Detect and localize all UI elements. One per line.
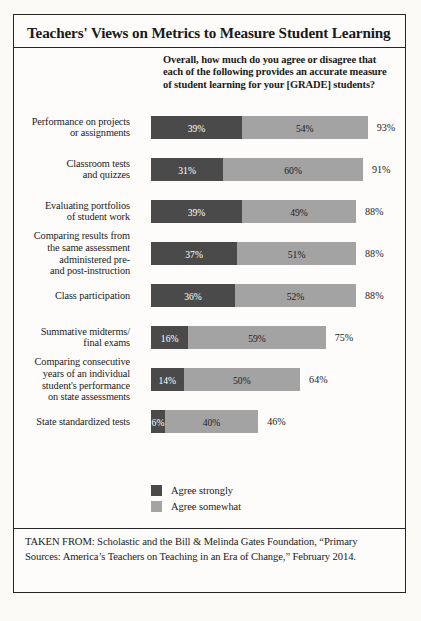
bar-value-agree-strongly: 36% <box>151 290 235 301</box>
bar-value-agree-somewhat: 52% <box>235 290 356 301</box>
bar-total-label: 88% <box>356 284 384 307</box>
bar-total-label: 75% <box>326 326 354 349</box>
bar-segment-agree-strongly: 39% <box>151 116 242 139</box>
stacked-bar: 6%40%46% <box>151 410 286 433</box>
bar-value-agree-strongly: 31% <box>151 164 223 175</box>
figure-page: Teachers' Views on Metrics to Measure St… <box>0 0 421 621</box>
bar-total-label: 64% <box>300 368 328 391</box>
bar-value-agree-somewhat: 49% <box>242 206 356 217</box>
legend-swatch-agree-strongly <box>151 485 162 496</box>
bar-value-agree-strongly: 39% <box>151 206 242 217</box>
stacked-bar: 16%59%75% <box>151 326 353 349</box>
chart-row: Comparing results fromthe same assessmen… <box>14 233 405 275</box>
legend-label-agree-strongly: Agree strongly <box>171 485 233 496</box>
legend-item-agree-somewhat: Agree somewhat <box>151 501 241 512</box>
category-label: State standardized tests <box>0 416 130 428</box>
legend-label-agree-somewhat: Agree somewhat <box>171 501 241 512</box>
legend-swatch-agree-somewhat <box>151 501 162 512</box>
bar-segment-agree-strongly: 6% <box>151 410 165 433</box>
bar-value-agree-strongly: 16% <box>151 332 188 343</box>
bar-value-agree-strongly: 14% <box>151 374 184 385</box>
stacked-bar: 39%54%93% <box>151 116 395 139</box>
page-title: Teachers' Views on Metrics to Measure St… <box>14 15 405 50</box>
stacked-bar: 37%51%88% <box>151 242 384 265</box>
bar-segment-agree-somewhat: 51% <box>237 242 356 265</box>
category-label: Summative midterms/final exams <box>0 326 130 349</box>
bar-segment-agree-somewhat: 40% <box>165 410 258 433</box>
category-label: Class participation <box>0 290 130 302</box>
bar-segment-agree-strongly: 16% <box>151 326 188 349</box>
bar-segment-agree-strongly: 31% <box>151 158 223 181</box>
bar-value-agree-somewhat: 54% <box>242 122 368 133</box>
chart-subtitle: Overall, how much do you agree or disagr… <box>163 54 391 91</box>
chart-legend: Agree strongly Agree somewhat <box>151 485 241 517</box>
stacked-bar: 14%50%64% <box>151 368 328 391</box>
bar-segment-agree-strongly: 37% <box>151 242 237 265</box>
chart-row: Class participation36%52%88% <box>14 275 405 317</box>
stacked-bar: 31%60%91% <box>151 158 391 181</box>
chart-row: Comparing consecutiveyears of an individ… <box>14 359 405 401</box>
legend-item-agree-strongly: Agree strongly <box>151 485 241 496</box>
chart-row: Performance on projectsor assignments39%… <box>14 107 405 149</box>
bar-total-label: 88% <box>356 242 384 265</box>
bar-segment-agree-somewhat: 54% <box>242 116 368 139</box>
figure-frame: Teachers' Views on Metrics to Measure St… <box>13 14 406 593</box>
bar-segment-agree-strongly: 14% <box>151 368 184 391</box>
chart-row: State standardized tests6%40%46% <box>14 401 405 443</box>
bar-segment-agree-somewhat: 49% <box>242 200 356 223</box>
category-label: Comparing results fromthe same assessmen… <box>0 230 130 276</box>
category-label: Evaluating portfoliosof student work <box>0 200 130 223</box>
chart-row: Summative midterms/final exams16%59%75% <box>14 317 405 359</box>
bar-segment-agree-strongly: 36% <box>151 284 235 307</box>
bar-segment-agree-somewhat: 52% <box>235 284 356 307</box>
bar-value-agree-strongly: 39% <box>151 122 242 133</box>
stacked-bar: 36%52%88% <box>151 284 384 307</box>
category-label: Classroom testsand quizzes <box>0 158 130 181</box>
bar-total-label: 93% <box>368 116 396 139</box>
bar-total-label: 91% <box>363 158 391 181</box>
bar-segment-agree-somewhat: 50% <box>184 368 301 391</box>
bar-value-agree-somewhat: 51% <box>237 248 356 259</box>
bar-segment-agree-strongly: 39% <box>151 200 242 223</box>
title-divider <box>14 47 405 48</box>
bar-total-label: 88% <box>356 200 384 223</box>
bar-value-agree-strongly: 6% <box>151 416 165 427</box>
category-label: Comparing consecutiveyears of an individ… <box>0 356 130 402</box>
source-note: TAKEN FROM: Scholastic and the Bill & Me… <box>25 535 393 564</box>
chart-row: Classroom testsand quizzes31%60%91% <box>14 149 405 191</box>
bar-value-agree-strongly: 37% <box>151 248 237 259</box>
bar-total-label: 46% <box>258 410 286 433</box>
bar-value-agree-somewhat: 60% <box>223 164 363 175</box>
bar-value-agree-somewhat: 59% <box>188 332 325 343</box>
category-label: Performance on projectsor assignments <box>0 116 130 139</box>
source-divider <box>14 528 405 529</box>
bar-segment-agree-somewhat: 60% <box>223 158 363 181</box>
bar-value-agree-somewhat: 40% <box>165 416 258 427</box>
stacked-bar-chart: Performance on projectsor assignments39%… <box>14 107 405 443</box>
stacked-bar: 39%49%88% <box>151 200 384 223</box>
bar-segment-agree-somewhat: 59% <box>188 326 325 349</box>
chart-row: Evaluating portfoliosof student work39%4… <box>14 191 405 233</box>
bar-value-agree-somewhat: 50% <box>184 374 301 385</box>
